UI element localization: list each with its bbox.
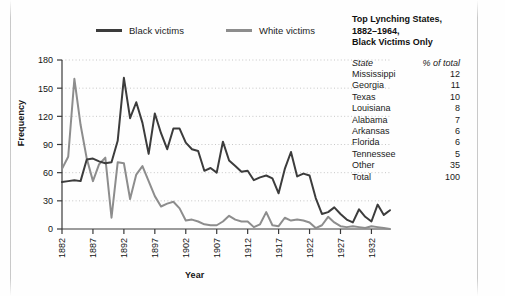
cell-state: Texas <box>352 92 418 103</box>
x-axis-title: Year <box>185 270 204 280</box>
x-tick-label: 1927 <box>336 238 346 258</box>
y-tick-label: 90 <box>43 140 53 150</box>
table-row: Georgia11 <box>352 80 470 91</box>
top-lynching-states-panel: Top Lynching States, 1882–1964, Black Vi… <box>352 14 472 183</box>
side-panel-title-line-2: 1882–1964, <box>352 26 472 38</box>
table-row: Total100 <box>352 172 470 183</box>
x-tick-label: 1912 <box>243 238 253 258</box>
cell-state: Louisiana <box>352 103 418 114</box>
cell-state: Alabama <box>352 115 418 126</box>
cell-state: Arkansas <box>352 126 418 137</box>
x-tick-label: 1922 <box>305 238 315 258</box>
cell-percent: 6 <box>418 137 470 148</box>
y-tick-label: 60 <box>43 168 53 178</box>
table-row: Alabama7 <box>352 115 470 126</box>
x-tick-label: 1932 <box>367 238 377 258</box>
x-tick-label: 1892 <box>119 238 129 258</box>
x-tick-label: 1897 <box>150 238 160 258</box>
table-row: Texas10 <box>352 92 470 103</box>
table-row: Mississippi12 <box>352 69 470 80</box>
y-tick-label: 30 <box>43 196 53 206</box>
cell-percent: 7 <box>418 115 470 126</box>
x-tick-label: 1887 <box>88 238 98 258</box>
y-axis-title: Frequency <box>16 93 26 153</box>
cell-state: Mississippi <box>352 69 418 80</box>
cell-percent: 6 <box>418 126 470 137</box>
state-percentage-table: State % of total Mississippi12Georgia11T… <box>352 58 470 183</box>
cell-percent: 35 <box>418 160 470 171</box>
cell-percent: 11 <box>418 80 470 91</box>
x-tick-label: 1917 <box>274 238 284 258</box>
y-tick-label: 150 <box>38 84 53 94</box>
cell-state: Total <box>352 172 418 183</box>
table-header-row: State % of total <box>352 58 470 69</box>
side-panel-title: Top Lynching States, 1882–1964, Black Vi… <box>352 14 472 49</box>
x-tick-label: 1882 <box>57 238 67 258</box>
figure-container: Black victims White victims 030609012015… <box>0 0 505 296</box>
column-header-percent: % of total <box>418 58 470 69</box>
cell-percent: 5 <box>418 149 470 160</box>
cell-percent: 10 <box>418 92 470 103</box>
column-header-state: State <box>352 58 418 69</box>
cell-state: Tennessee <box>352 149 418 160</box>
x-tick-label: 1902 <box>181 238 191 258</box>
table-row: Arkansas6 <box>352 126 470 137</box>
cell-state: Other <box>352 160 418 171</box>
y-tick-label: 180 <box>38 55 53 65</box>
cell-state: Georgia <box>352 80 418 91</box>
cell-percent: 8 <box>418 103 470 114</box>
y-tick-label: 0 <box>48 224 53 234</box>
table-row: Other35 <box>352 160 470 171</box>
cell-percent: 12 <box>418 69 470 80</box>
cell-percent: 100 <box>418 172 470 183</box>
cell-state: Florida <box>352 137 418 148</box>
table-row: Florida6 <box>352 137 470 148</box>
side-panel-title-line-1: Top Lynching States, <box>352 14 472 26</box>
table-row: Louisiana8 <box>352 103 470 114</box>
y-tick-label: 120 <box>38 112 53 122</box>
side-panel-title-line-3: Black Victims Only <box>352 37 472 49</box>
x-tick-label: 1907 <box>212 238 222 258</box>
table-row: Tennessee5 <box>352 149 470 160</box>
